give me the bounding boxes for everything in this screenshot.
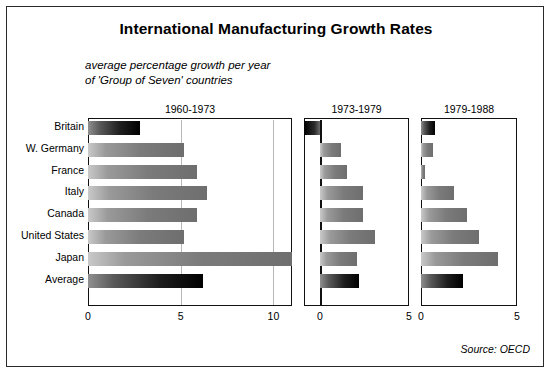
chart-plot-area: BritainW. GermanyFranceItalyCanadaUnited… — [0, 0, 552, 375]
category-label-united-states: United States — [6, 229, 84, 241]
bar-1973-1979-italy — [320, 186, 363, 200]
bar-1979-1988-canada — [421, 208, 467, 222]
bar-1979-1988-japan — [421, 252, 498, 266]
bar-1979-1988-w-germany — [421, 143, 433, 157]
bar-1979-1988-france — [421, 165, 425, 179]
bar-1960-1973-britain — [88, 121, 140, 135]
bar-1979-1988-italy — [421, 186, 454, 200]
category-label-britain: Britain — [6, 120, 84, 132]
bar-1960-1973-italy — [88, 186, 207, 200]
bar-1960-1973-france — [88, 165, 197, 179]
category-label-average: Average — [6, 273, 84, 285]
panel-title-1960-1973: 1960-1973 — [88, 103, 292, 115]
x-tick-1960-1973-10: 10 — [258, 310, 288, 322]
bar-1960-1973-canada — [88, 208, 197, 222]
bar-1973-1979-canada — [320, 208, 363, 222]
category-label-japan: Japan — [6, 251, 84, 263]
bar-1973-1979-w-germany — [320, 143, 341, 157]
chart-source-note: Source: OECD — [461, 343, 530, 355]
x-tick-1973-1979-0: 0 — [305, 310, 335, 322]
bar-1960-1973-united-states — [88, 230, 184, 244]
bar-1979-1988-average — [421, 274, 463, 288]
bar-1973-1979-japan — [320, 252, 357, 266]
bar-1973-1979-france — [320, 165, 347, 179]
panel-title-1973-1979: 1973-1979 — [304, 103, 409, 115]
x-tick-1979-1988-0: 0 — [406, 310, 436, 322]
category-label-w-germany: W. Germany — [6, 142, 84, 154]
panel-title-1979-1988: 1979-1988 — [421, 103, 517, 115]
category-label-italy: Italy — [6, 185, 84, 197]
bar-1979-1988-britain — [421, 121, 435, 135]
bar-1979-1988-united-states — [421, 230, 479, 244]
category-label-france: France — [6, 164, 84, 176]
x-tick-1979-1988-5: 5 — [502, 310, 532, 322]
bar-1960-1973-average — [88, 274, 203, 288]
bar-1960-1973-w-germany — [88, 143, 184, 157]
category-label-canada: Canada — [6, 207, 84, 219]
gridline-1960-1973-10 — [273, 120, 274, 305]
x-tick-1960-1973-5: 5 — [166, 310, 196, 322]
bar-1960-1973-japan — [88, 252, 292, 266]
x-tick-1960-1973-0: 0 — [73, 310, 103, 322]
bar-1973-1979-britain — [304, 121, 320, 135]
bar-1973-1979-united-states — [320, 230, 375, 244]
bar-1973-1979-average — [320, 274, 359, 288]
